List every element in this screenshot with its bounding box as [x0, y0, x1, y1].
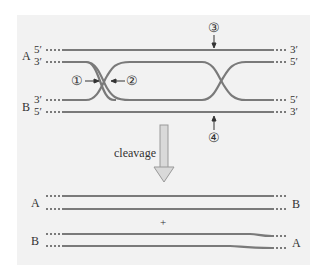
- product2-left-label: B: [31, 234, 39, 248]
- product2-top: [62, 234, 272, 236]
- arrow-3-icon: [212, 35, 216, 48]
- plus-sign: +: [160, 216, 166, 228]
- arrow-1-icon: [85, 79, 99, 83]
- product1-right-label: B: [292, 197, 300, 211]
- product2-bottom: [62, 246, 272, 248]
- arrow-2-icon: [111, 79, 125, 83]
- label-a-right-top: 3′: [290, 43, 298, 55]
- marker-1: ①: [71, 73, 83, 88]
- label-b-right-top: 5′: [290, 93, 298, 105]
- label-a-left-bottom: 3′: [34, 55, 42, 67]
- label-b-left-bottom: 5′: [34, 105, 42, 117]
- cleavage-label: cleavage: [114, 146, 156, 160]
- marker-4: ④: [208, 130, 220, 145]
- holliday-junction-diagram: A 5′ 3′ 3′ 5′ B 3′ 5′ 5′ 3′ ① ② ③ ④ clea…: [0, 0, 321, 276]
- marker-3: ③: [208, 20, 220, 35]
- label-b-left-top: 3′: [34, 93, 42, 105]
- product2-right-label: A: [292, 236, 301, 250]
- label-duplex-b: B: [22, 100, 30, 114]
- marker-2: ②: [126, 73, 138, 88]
- dotted-ends-bottom: [46, 196, 288, 248]
- arrow-4-icon: [212, 116, 216, 130]
- label-a-left-top: 5′: [34, 43, 42, 55]
- label-b-right-bottom: 3′: [290, 105, 298, 117]
- cleavage-arrow-icon: [154, 125, 174, 182]
- label-a-right-bottom: 5′: [290, 55, 298, 67]
- bottom-strands: [62, 196, 272, 248]
- label-duplex-a: A: [22, 49, 31, 63]
- product1-left-label: A: [31, 196, 40, 210]
